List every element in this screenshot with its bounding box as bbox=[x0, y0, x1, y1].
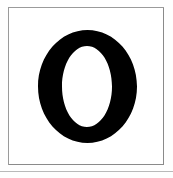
scan-canvas bbox=[0, 0, 173, 178]
glyph-stage bbox=[9, 8, 163, 164]
scan-bottom-edge bbox=[0, 171, 173, 172]
letter-o-glyph bbox=[38, 30, 137, 143]
frame-border-box bbox=[8, 7, 164, 165]
